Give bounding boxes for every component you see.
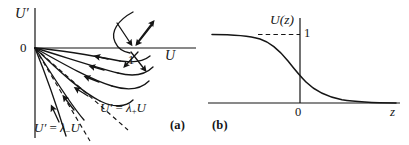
lp-tail: U [137, 100, 146, 115]
panel-a-origin-label: 0 [20, 41, 27, 54]
panel-a-phase-plane: U′ 0 1 U U′ = λ+U U′ = λ−U (a) [0, 0, 205, 145]
panel-a-tag: (a) [170, 118, 185, 133]
lp-eq: = [112, 100, 126, 115]
panel-b-front-profile: U(z) 1 0 z (b) [200, 0, 409, 145]
panel-b-y-axis-label: U(z) [270, 13, 294, 27]
panel-b-canvas [200, 0, 409, 145]
panel-a-y-axis-label: U′ [15, 6, 29, 21]
lm-var: U′ [34, 120, 46, 135]
panel-b-asymptote-label: 1 [304, 27, 310, 40]
eigendirection-lambda-plus-label: U′ = λ+U [100, 101, 146, 116]
saddle-arrow-out-upper-right [137, 22, 153, 43]
panel-a-x-tick-label: 1 [128, 54, 134, 67]
front-profile-curve [212, 35, 396, 104]
lm-eq: = [46, 120, 60, 135]
trajectory-2-tail [118, 67, 153, 75]
trajectory-3-tail [112, 81, 149, 89]
saddle-arrow-in-upper-right [137, 25, 152, 44]
panel-b-tag: (b) [212, 118, 228, 133]
trajectory-5 [35, 48, 84, 120]
lm-tail: U [71, 120, 80, 135]
saddle-arrow-in-upper-left [117, 23, 131, 44]
lp-var: U′ [100, 100, 112, 115]
panel-b-origin-label: 0 [295, 106, 301, 119]
panel-a-x-axis-label: U [165, 49, 175, 63]
eigendirection-lambda-minus-label: U′ = λ−U [34, 121, 80, 136]
panel-b-x-axis-label: z [390, 105, 395, 118]
figure-root: U′ 0 1 U U′ = λ+U U′ = λ−U (a) U(z) 1 0 … [0, 0, 409, 145]
